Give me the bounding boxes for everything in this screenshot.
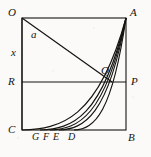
label-point-p: P [131,76,138,87]
geometry-figure: O A C B R P Q a x G F E D [0,0,151,157]
label-point-o: O [8,7,16,18]
curve-from-f [50,18,126,130]
label-point-c: C [8,124,15,135]
label-point-q: Q [101,65,109,76]
label-point-b: B [128,132,135,143]
label-point-a: A [130,7,137,18]
label-point-g: G [32,132,39,142]
curve-from-g [40,18,126,130]
label-segment-x: x [11,47,16,58]
label-point-d: D [68,132,75,142]
curve-from-e [59,18,126,130]
label-segment-a: a [31,29,37,40]
label-point-f: F [43,132,49,142]
label-point-r: R [8,76,15,87]
label-point-e: E [53,132,59,142]
curve-family [22,18,126,130]
